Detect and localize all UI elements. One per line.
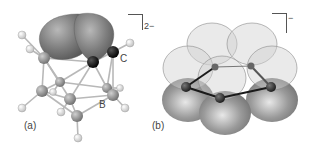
panel-b-ring-orbital: − (b) (150, 0, 309, 151)
carbon-atom-label: C (120, 54, 127, 64)
orbital-lobes (39, 13, 113, 62)
panel-label-b: (b) (152, 121, 164, 131)
charge-bracket (272, 13, 287, 33)
boron-atom-label: B (99, 100, 106, 110)
panel-label-a: (a) (24, 121, 36, 131)
charge-bracket (128, 14, 143, 30)
panel-a-carborane: C B 2− (a) (0, 0, 155, 151)
charge-label: − (288, 14, 293, 23)
